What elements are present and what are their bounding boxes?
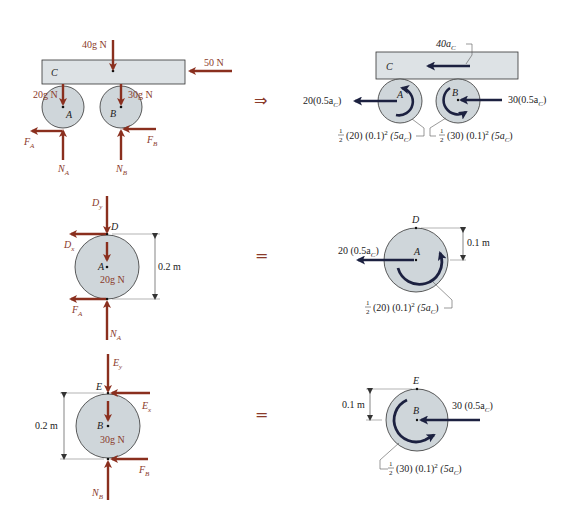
weight-b-label: 30g N xyxy=(128,89,153,100)
friction-a-label: FA xyxy=(23,136,35,150)
friction-b-label: FB xyxy=(146,134,158,148)
plate-inertia-label: 40aC xyxy=(436,38,456,52)
moment-label: 1 2 (30) (0.1)2 (5aC) xyxy=(388,460,462,477)
normal-b-label: NB xyxy=(115,163,128,177)
weight-label: 30g N xyxy=(100,434,125,445)
inertia-label: 30 (0.5aC) xyxy=(452,400,493,414)
row2-kinetic-diagram: D A 0.1 m 20 (0.5aC) 1 2 (20) (0.1)2 (5a… xyxy=(338,214,490,316)
weight-c-label: 40g N xyxy=(82,39,107,50)
point-d-label: D xyxy=(411,214,420,225)
row2-free-body-diagram: Dy D Dx A 20g N 0.2 m FA NA xyxy=(63,196,181,342)
dimension-label: 0.1 m xyxy=(467,237,490,248)
equals-symbol: = xyxy=(255,405,268,424)
dx-label: Dx xyxy=(63,239,75,253)
inertia-b-label: 30(0.5aC) xyxy=(508,94,546,108)
moment-b-label: 1 2 (30) (0.1)2 (5aC) xyxy=(439,127,513,144)
row1-kinetic-diagram: C 40aC A B 20(0.5aC) 30(0.5aC) 1 2 (20) … xyxy=(303,38,546,144)
svg-text:1: 1 xyxy=(389,460,393,468)
ey-label: Ey xyxy=(112,357,123,371)
plate-c-label: C xyxy=(51,67,58,78)
applied-force-label: 50 N xyxy=(204,57,224,68)
svg-text:2: 2 xyxy=(339,136,343,144)
svg-text:1: 1 xyxy=(366,299,370,307)
row3-kinetic-diagram: E B 0.1 m 30 (0.5aC) 1 2 (30) (0.1)2 (5a… xyxy=(342,375,493,477)
kinetics-diagram: C 40g N 50 N 20g N 30g N A B FA FB NA NB… xyxy=(0,0,577,522)
row1-free-body-diagram: C 40g N 50 N 20g N 30g N A B FA FB NA NB xyxy=(23,39,232,177)
point-d-label: D xyxy=(110,221,119,232)
normal-a-label: NA xyxy=(57,163,70,177)
center-b-label: B xyxy=(97,420,103,431)
point-e-label: E xyxy=(412,375,419,386)
svg-text:(20) (0.1)2 (5aC): (20) (0.1)2 (5aC) xyxy=(346,129,412,144)
inertia-label: 20 (0.5aC) xyxy=(338,245,379,259)
disk-b-label: B xyxy=(452,87,458,98)
disk-a-label: A xyxy=(396,89,404,100)
moment-a-label: 1 2 (20) (0.1)2 (5aC) xyxy=(338,127,412,144)
normal-label: NB xyxy=(91,487,104,501)
moment-label: 1 2 (20) (0.1)2 (5aC) xyxy=(365,299,439,316)
dimension-label: 0.2 m xyxy=(158,261,181,272)
disk-a-label: A xyxy=(65,109,73,120)
dimension-label: 0.1 m xyxy=(342,399,365,410)
normal-label: NA xyxy=(109,328,122,342)
svg-text:2: 2 xyxy=(440,136,444,144)
weight-a-label: 20g N xyxy=(33,89,58,100)
implies-symbol: ⇒ xyxy=(254,91,267,110)
row3-free-body-diagram: Ey E Ex B 30g N 0.2 m FB NB xyxy=(35,354,152,501)
svg-text:(30) (0.1)2 (5aC): (30) (0.1)2 (5aC) xyxy=(396,462,462,477)
svg-text:1: 1 xyxy=(339,127,343,135)
svg-text:2: 2 xyxy=(366,308,370,316)
weight-label: 20g N xyxy=(100,274,125,285)
svg-text:1: 1 xyxy=(440,127,444,135)
inertia-a-label: 20(0.5aC) xyxy=(303,95,341,109)
svg-text:2: 2 xyxy=(389,469,393,477)
svg-text:(20) (0.1)2 (5aC): (20) (0.1)2 (5aC) xyxy=(373,301,439,316)
dimension-label: 0.2 m xyxy=(35,420,58,431)
svg-text:(30) (0.1)2 (5aC): (30) (0.1)2 (5aC) xyxy=(447,129,513,144)
friction-label: FA xyxy=(71,304,83,318)
ex-label: Ex xyxy=(141,400,152,414)
center-a-label: A xyxy=(413,246,421,257)
dy-label: Dy xyxy=(91,197,103,211)
point-e-label: E xyxy=(95,381,102,392)
plate-c-label: C xyxy=(386,61,393,72)
center-b-label: B xyxy=(413,405,419,416)
equals-symbol: = xyxy=(255,246,268,265)
center-a-label: A xyxy=(97,261,105,272)
friction-label: FB xyxy=(138,464,150,478)
disk-b-label: B xyxy=(110,108,116,119)
